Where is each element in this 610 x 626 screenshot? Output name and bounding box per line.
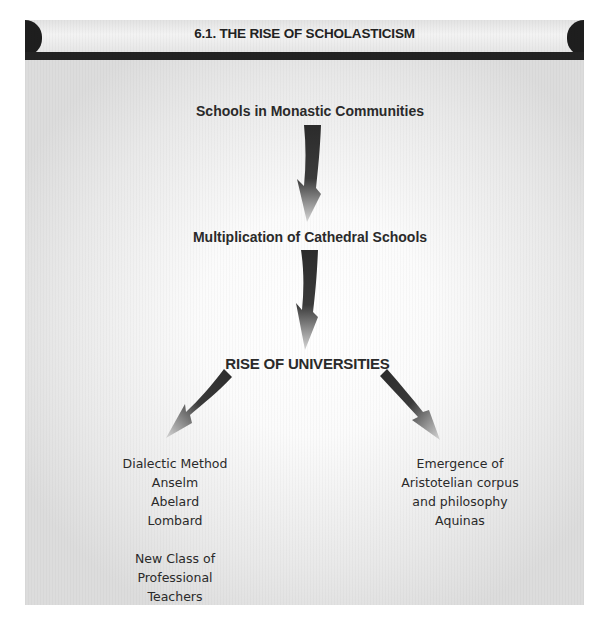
arrow-down-left-icon <box>166 369 232 438</box>
text-dialectic-method: Dialectic Method <box>95 454 255 473</box>
arrow-down-right-icon <box>380 369 440 440</box>
text-aquinas: Aquinas <box>370 511 550 530</box>
node-right-branch: Emergence of Aristotelian corpus and phi… <box>370 454 550 530</box>
node-left-branch: Dialectic Method Anselm Abelard Lombard … <box>95 454 255 606</box>
arrow-down-icon <box>297 125 321 222</box>
text-lombard: Lombard <box>95 511 255 530</box>
arrow-down-icon <box>296 250 318 350</box>
text-abelard: Abelard <box>95 492 255 511</box>
text-new-class-of: New Class of <box>95 549 255 568</box>
arrows-layer <box>0 0 610 626</box>
spacer <box>95 530 255 549</box>
text-anselm: Anselm <box>95 473 255 492</box>
text-and-philosophy: and philosophy <box>370 492 550 511</box>
text-professional: Professional <box>95 568 255 587</box>
node-cathedral-schools: Multiplication of Cathedral Schools <box>150 229 470 245</box>
node-monastic-schools: Schools in Monastic Communities <box>160 103 460 119</box>
node-rise-of-universities: RISE OF UNIVERSITIES <box>200 355 415 372</box>
text-teachers: Teachers <box>95 587 255 606</box>
text-aristotelian-corpus: Aristotelian corpus <box>370 473 550 492</box>
text-emergence-of: Emergence of <box>370 454 550 473</box>
